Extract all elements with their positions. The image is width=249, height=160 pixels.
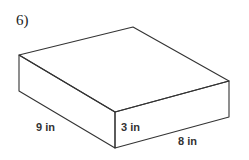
rectangular-prism-figure xyxy=(0,0,249,160)
height-label: 3 in xyxy=(121,121,140,133)
top-face xyxy=(19,27,229,112)
left-face xyxy=(19,55,115,148)
right-face xyxy=(115,81,229,148)
length-label: 9 in xyxy=(36,121,55,133)
width-label: 8 in xyxy=(178,135,197,147)
